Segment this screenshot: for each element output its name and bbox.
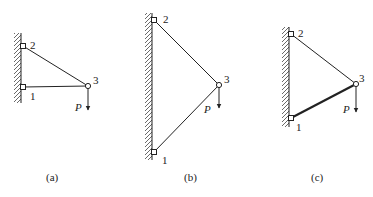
support-node-1 (152, 150, 157, 155)
member-2-3 (291, 34, 356, 84)
support-node-2 (289, 32, 294, 37)
truss-diagrams: 2 1 3 P (a) 2 1 3 P (b) 2 1 3 P (c) (0, 0, 373, 197)
figure-b: 2 1 3 P (b) (145, 13, 230, 184)
node-label-3: 3 (224, 73, 230, 85)
caption-a: (a) (46, 171, 59, 184)
joint-node-3 (216, 82, 221, 87)
wall-hatch (282, 27, 289, 127)
joint-node-3 (85, 83, 90, 88)
node-label-1: 1 (162, 154, 168, 166)
node-label-3: 3 (359, 72, 365, 84)
node-label-1: 1 (30, 90, 36, 102)
load-label-p: P (342, 103, 350, 115)
wall-hatch (14, 33, 21, 103)
node-label-2: 2 (30, 39, 36, 51)
load-label-p: P (74, 101, 82, 113)
support-node-2 (21, 44, 26, 49)
figure-a: 2 1 3 P (a) (14, 33, 99, 184)
support-node-1 (21, 85, 26, 90)
load-label-p: P (203, 103, 211, 115)
member-1-3 (154, 85, 219, 152)
wall-hatch (145, 13, 152, 160)
member-1-3 (23, 86, 88, 87)
support-node-1 (289, 116, 294, 121)
caption-c: (c) (311, 171, 324, 184)
member-2-3 (23, 46, 88, 86)
node-label-2: 2 (163, 13, 169, 25)
node-label-3: 3 (93, 74, 99, 86)
support-node-2 (152, 18, 157, 23)
caption-b: (b) (184, 171, 197, 184)
member-2-3 (154, 20, 219, 85)
joint-node-3 (353, 81, 358, 86)
node-label-2: 2 (298, 27, 304, 39)
node-label-1: 1 (296, 121, 302, 133)
figure-c: 2 1 3 P (c) (282, 27, 365, 184)
